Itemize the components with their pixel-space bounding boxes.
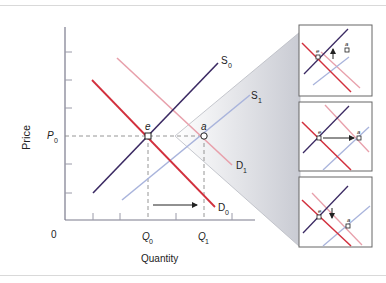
- svg-text:S: S: [221, 55, 228, 66]
- svg-text:1: 1: [205, 238, 209, 245]
- point-e-label: e: [145, 121, 151, 132]
- svg-text:0: 0: [54, 137, 58, 144]
- svg-text:S: S: [251, 90, 258, 101]
- panel-bottom: e a: [299, 177, 372, 247]
- point-e-marker: [145, 133, 151, 139]
- y-axis-label: Price: [20, 125, 32, 150]
- label-d0: D 0: [218, 202, 229, 216]
- svg-text:0: 0: [225, 209, 229, 216]
- panel-top: e a: [299, 25, 372, 96]
- svg-text:0: 0: [228, 62, 232, 69]
- guide-lines: [65, 136, 204, 220]
- svg-text:P: P: [47, 130, 54, 141]
- x-axis-label: Quantity: [141, 253, 178, 264]
- origin-label: 0: [51, 229, 57, 240]
- price-p0-label: P 0: [47, 130, 58, 144]
- point-a-label: a: [201, 121, 207, 132]
- quantity-q0-label: Q 0: [142, 231, 153, 245]
- quantity-q1-label: Q 1: [198, 231, 209, 245]
- svg-text:1: 1: [243, 167, 247, 174]
- label-s0: S 0: [221, 55, 232, 69]
- svg-text:1: 1: [258, 97, 262, 104]
- point-a-marker: [201, 133, 207, 139]
- svg-text:0: 0: [149, 238, 153, 245]
- supply-demand-diagram: e a S 0 S 1 D 1 D 0 Price Quantity 0 P 0…: [0, 0, 386, 283]
- zoom-wedge: [175, 32, 300, 247]
- panel-middle: e a: [299, 102, 372, 171]
